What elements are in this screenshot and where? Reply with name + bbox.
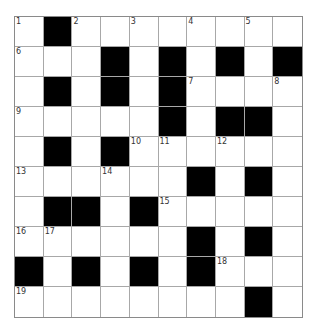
answer-cell[interactable] [72, 137, 101, 167]
answer-cell[interactable] [216, 17, 245, 47]
answer-cell[interactable] [72, 107, 101, 137]
block-cell [245, 227, 274, 257]
answer-cell[interactable] [101, 17, 130, 47]
answer-cell[interactable] [72, 227, 101, 257]
answer-cell[interactable] [187, 47, 216, 77]
answer-cell[interactable] [273, 257, 302, 287]
clue-number: 11 [160, 137, 170, 147]
answer-cell[interactable]: 14 [101, 167, 130, 197]
answer-cell[interactable] [216, 167, 245, 197]
clue-number: 4 [188, 17, 193, 27]
answer-cell[interactable] [273, 167, 302, 197]
clue-number: 17 [45, 227, 55, 237]
answer-cell[interactable] [159, 227, 188, 257]
block-cell [216, 107, 245, 137]
answer-cell[interactable] [187, 197, 216, 227]
clue-number: 5 [246, 17, 251, 27]
answer-cell[interactable] [130, 107, 159, 137]
answer-cell[interactable]: 11 [159, 137, 188, 167]
answer-cell[interactable] [44, 47, 73, 77]
answer-cell[interactable]: 15 [159, 197, 188, 227]
block-cell [44, 17, 73, 47]
block-cell [15, 257, 44, 287]
answer-cell[interactable] [273, 227, 302, 257]
answer-cell[interactable] [72, 287, 101, 317]
answer-cell[interactable]: 3 [130, 17, 159, 47]
answer-cell[interactable] [187, 137, 216, 167]
answer-cell[interactable] [72, 167, 101, 197]
answer-cell[interactable] [273, 137, 302, 167]
answer-cell[interactable]: 6 [15, 47, 44, 77]
clue-number: 15 [160, 197, 170, 207]
block-cell [187, 257, 216, 287]
clue-number: 3 [131, 17, 136, 27]
answer-cell[interactable]: 18 [216, 257, 245, 287]
answer-cell[interactable]: 13 [15, 167, 44, 197]
answer-cell[interactable] [159, 167, 188, 197]
answer-cell[interactable]: 19 [15, 287, 44, 317]
answer-cell[interactable] [101, 287, 130, 317]
block-cell [245, 167, 274, 197]
answer-cell[interactable] [245, 47, 274, 77]
clue-number: 16 [16, 227, 26, 237]
answer-cell[interactable] [159, 287, 188, 317]
answer-cell[interactable] [101, 227, 130, 257]
clue-number: 12 [217, 137, 227, 147]
answer-cell[interactable] [130, 287, 159, 317]
answer-cell[interactable] [159, 257, 188, 287]
answer-cell[interactable]: 7 [187, 77, 216, 107]
answer-cell[interactable] [216, 197, 245, 227]
answer-cell[interactable] [273, 287, 302, 317]
answer-cell[interactable]: 5 [245, 17, 274, 47]
answer-cell[interactable] [216, 77, 245, 107]
answer-cell[interactable]: 10 [130, 137, 159, 167]
answer-cell[interactable] [101, 107, 130, 137]
answer-cell[interactable]: 1 [15, 17, 44, 47]
answer-cell[interactable] [101, 197, 130, 227]
block-cell [101, 77, 130, 107]
answer-cell[interactable] [187, 287, 216, 317]
answer-cell[interactable]: 12 [216, 137, 245, 167]
answer-cell[interactable] [245, 257, 274, 287]
answer-cell[interactable] [245, 197, 274, 227]
answer-cell[interactable] [44, 167, 73, 197]
answer-cell[interactable] [15, 137, 44, 167]
answer-cell[interactable] [130, 77, 159, 107]
clue-number: 13 [16, 167, 26, 177]
answer-cell[interactable] [15, 197, 44, 227]
answer-cell[interactable]: 4 [187, 17, 216, 47]
answer-cell[interactable] [15, 77, 44, 107]
answer-cell[interactable] [130, 47, 159, 77]
answer-cell[interactable]: 16 [15, 227, 44, 257]
answer-cell[interactable] [72, 47, 101, 77]
answer-cell[interactable] [101, 257, 130, 287]
answer-cell[interactable] [44, 107, 73, 137]
answer-cell[interactable] [273, 107, 302, 137]
answer-cell[interactable] [245, 77, 274, 107]
block-cell [159, 77, 188, 107]
answer-cell[interactable] [159, 17, 188, 47]
clue-number: 6 [16, 47, 21, 57]
answer-cell[interactable] [216, 227, 245, 257]
answer-cell[interactable] [44, 287, 73, 317]
answer-cell[interactable]: 2 [72, 17, 101, 47]
clue-number: 10 [131, 137, 141, 147]
block-cell [101, 137, 130, 167]
answer-cell[interactable] [273, 17, 302, 47]
answer-cell[interactable] [130, 227, 159, 257]
answer-cell[interactable] [187, 107, 216, 137]
clue-number: 18 [217, 257, 227, 267]
answer-cell[interactable] [44, 257, 73, 287]
answer-cell[interactable]: 8 [273, 77, 302, 107]
block-cell [216, 47, 245, 77]
block-cell [44, 137, 73, 167]
answer-cell[interactable]: 9 [15, 107, 44, 137]
answer-cell[interactable] [245, 137, 274, 167]
block-cell [72, 257, 101, 287]
answer-cell[interactable] [216, 287, 245, 317]
answer-cell[interactable]: 17 [44, 227, 73, 257]
answer-cell[interactable] [130, 167, 159, 197]
block-cell [44, 197, 73, 227]
answer-cell[interactable] [273, 197, 302, 227]
answer-cell[interactable] [72, 77, 101, 107]
